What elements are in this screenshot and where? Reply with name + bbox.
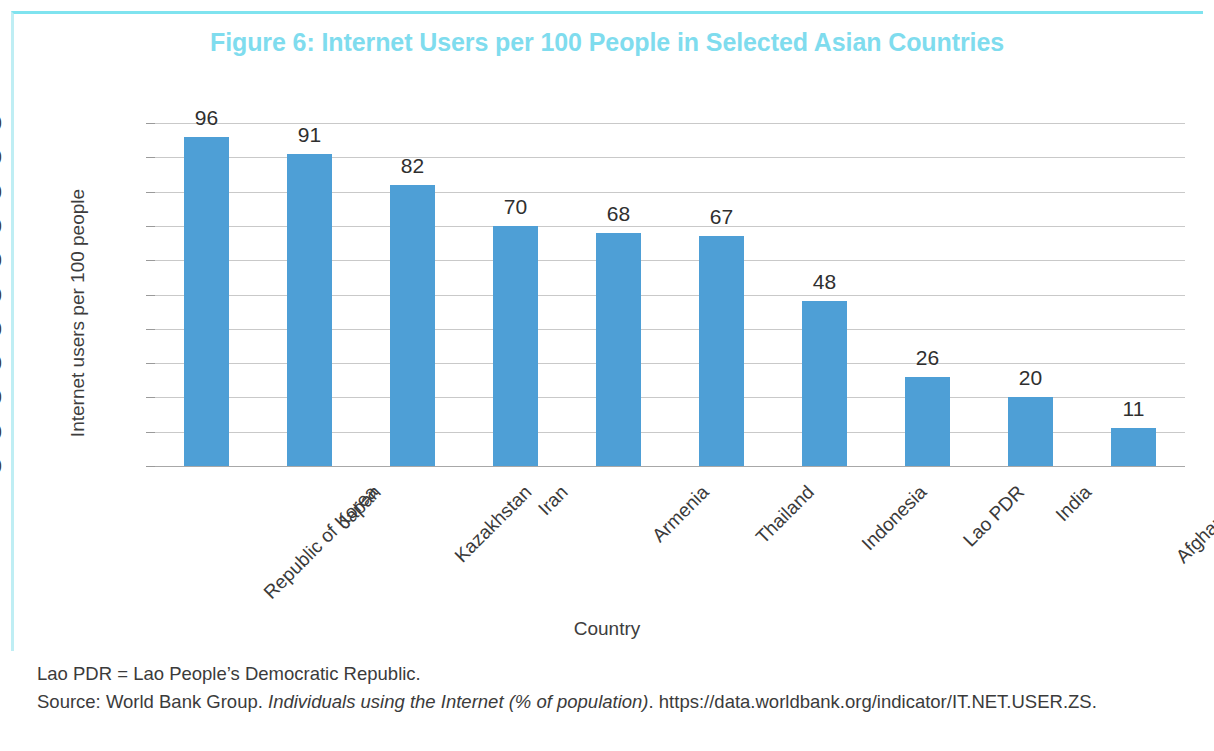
y-axis-tick-label: 70 <box>0 215 2 236</box>
y-axis-tick-label: 10 <box>0 421 2 442</box>
x-axis-category-label: Lao PDR <box>959 482 1027 550</box>
y-axis-tick-label: 60 <box>0 249 2 270</box>
y-axis-tick <box>146 432 155 433</box>
bar <box>493 226 538 466</box>
y-axis-tick <box>146 466 155 467</box>
y-axis-title: Internet users per 100 people <box>67 163 89 463</box>
bar-value-label: 82 <box>373 155 453 176</box>
footnotes: Lao PDR = Lao People’s Democratic Republ… <box>37 660 1197 716</box>
x-axis-category-label: Iran <box>534 482 571 519</box>
y-axis-tick <box>146 192 155 193</box>
y-axis-tick <box>146 226 155 227</box>
bar-value-label: 70 <box>476 196 556 217</box>
x-axis-category-label: India <box>1052 482 1095 525</box>
source-prefix: Source: World Bank Group. <box>37 691 268 712</box>
y-axis-tick <box>146 329 155 330</box>
y-axis-tick <box>146 295 155 296</box>
x-axis-category-label: Afghanistan <box>1172 482 1214 566</box>
bar-value-label: 68 <box>579 203 659 224</box>
source-url: . https://data.worldbank.org/indicator/I… <box>649 691 1097 712</box>
bar <box>184 137 229 466</box>
bar-chart: Internet users per 100 people 1009080706… <box>0 0 1214 751</box>
plot-area: Internet users per 100 people 1009080706… <box>155 123 1185 466</box>
gridline <box>155 466 1185 467</box>
bar <box>287 154 332 466</box>
bar-value-label: 91 <box>270 124 350 145</box>
x-axis-category-label: Indonesia <box>858 482 930 554</box>
bar <box>1008 397 1053 466</box>
y-axis-tick <box>146 363 155 364</box>
y-axis-tick-label: 100 <box>0 112 2 133</box>
abbreviation-note: Lao PDR = Lao People’s Democratic Republ… <box>37 660 1197 688</box>
y-axis-tick <box>146 260 155 261</box>
y-axis-tick <box>146 123 155 124</box>
bar-value-label: 96 <box>167 107 247 128</box>
bar <box>596 233 641 466</box>
bar <box>1111 428 1156 466</box>
y-axis-tick-label: 80 <box>0 181 2 202</box>
y-axis-tick <box>146 157 155 158</box>
bar <box>802 301 847 466</box>
y-axis-tick-label: 90 <box>0 146 2 167</box>
bar-value-label: 67 <box>682 206 762 227</box>
y-axis-tick-label: 40 <box>0 318 2 339</box>
source-publication-title: Individuals using the Internet (% of pop… <box>268 691 649 712</box>
bar <box>905 377 950 466</box>
bar-value-label: 20 <box>991 367 1071 388</box>
x-axis-category-label: Armenia <box>648 482 711 545</box>
bar <box>390 185 435 466</box>
source-note: Source: World Bank Group. Individuals us… <box>37 688 1197 716</box>
x-axis-category-label: Thailand <box>752 482 817 547</box>
bar-value-label: 11 <box>1094 398 1174 419</box>
bar-value-label: 48 <box>785 271 865 292</box>
x-axis-title: Country <box>0 618 1214 640</box>
y-axis-tick-label: 20 <box>0 386 2 407</box>
bar <box>699 236 744 466</box>
x-axis-category-label: Kazakhstan <box>451 482 535 566</box>
y-axis-tick-label: 0 <box>0 455 2 476</box>
y-axis-tick <box>146 397 155 398</box>
y-axis-tick-label: 50 <box>0 284 2 305</box>
bar-value-label: 26 <box>888 347 968 368</box>
y-axis-tick-label: 30 <box>0 352 2 373</box>
